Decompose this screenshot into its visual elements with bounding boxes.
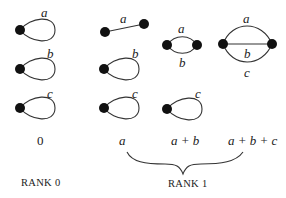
vertex (99, 103, 109, 113)
loop-edge (20, 58, 55, 80)
vertex (192, 40, 202, 50)
rank1-a-edge-a: a (100, 11, 149, 37)
edge-label-c: c (47, 86, 53, 101)
edge-label-c: c (244, 65, 250, 80)
edge-label-a: a (120, 11, 127, 26)
rank0-loop-a: a (15, 5, 55, 41)
edge-label-b: b (47, 46, 54, 61)
rank0-loop-c: c (15, 86, 55, 119)
edge-label-b: b (179, 55, 186, 70)
vertex (15, 25, 25, 35)
vertex (100, 27, 110, 37)
rank1-brace (127, 152, 243, 174)
rank1-value-label-a-plus-b-plus-c: a + b + c (228, 133, 278, 148)
vertex (15, 64, 25, 74)
rank1-ab-loop-c: c (162, 86, 202, 120)
edge-a (223, 26, 272, 44)
vertex (139, 19, 149, 29)
rank0-title: RANK 0 (21, 177, 60, 188)
vertex (218, 39, 228, 49)
vertex (267, 39, 277, 49)
vertex (99, 64, 109, 74)
edge-label-a: a (41, 5, 48, 20)
loop-edge (104, 58, 139, 80)
edge-label-c: c (132, 86, 138, 101)
rank1-title: RANK 1 (168, 178, 207, 189)
edge-label-b: b (244, 46, 251, 61)
loop-edge (167, 98, 202, 120)
vertex (162, 40, 172, 50)
edge-label-a: a (178, 21, 185, 36)
edge-label-c: c (195, 86, 201, 101)
edge-label-a: a (243, 11, 250, 26)
rank1-a-loop-c: c (99, 86, 139, 119)
edge-label-b: b (132, 46, 139, 61)
loop-edge (20, 19, 55, 41)
rank1-value-label-a-plus-b: a + b (171, 133, 200, 148)
rank1-ab-double-edge: a b (162, 21, 202, 70)
rank1-value-label-a: a (119, 133, 126, 148)
rank1-a-loop-b: b (99, 46, 139, 80)
vertex (15, 103, 25, 113)
vertex (162, 104, 172, 114)
rank0-value-label: 0 (37, 133, 44, 148)
rank-graphs-diagram: a b c 0 RANK 0 a b c a a b (0, 0, 286, 198)
rank0-loop-b: b (15, 46, 55, 80)
rank1-abc-triple-edge: a b c (218, 11, 277, 80)
